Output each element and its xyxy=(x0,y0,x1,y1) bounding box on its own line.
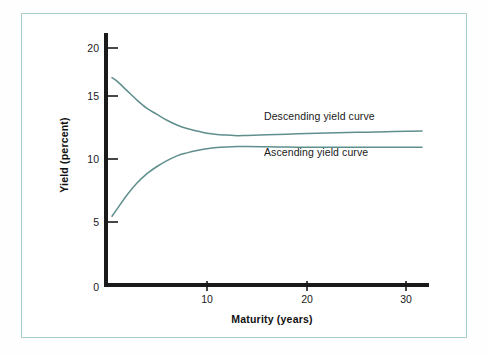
y-tick-label-0: 0 xyxy=(93,281,99,293)
chart-figure: 20 15 10 5 0 10 20 30 Maturity (years) Y… xyxy=(0,0,488,354)
x-tick-label-20: 20 xyxy=(301,293,313,305)
y-tick-label-15: 15 xyxy=(87,90,99,102)
yield-curve-plot: 20 15 10 5 0 10 20 30 Maturity (years) Y… xyxy=(0,0,488,354)
descending-yield-curve xyxy=(112,78,422,136)
y-axis-title: Yield (percent) xyxy=(58,117,70,193)
y-tick-label-20: 20 xyxy=(87,42,99,54)
descending-curve-label: Descending yield curve xyxy=(264,110,375,122)
y-tick-label-5: 5 xyxy=(93,216,99,228)
y-tick-label-10: 10 xyxy=(87,153,99,165)
ascending-curve-label: Ascending yield curve xyxy=(264,146,368,158)
x-axis-title: Maturity (years) xyxy=(231,313,312,325)
x-tick-label-10: 10 xyxy=(201,293,213,305)
x-tick-label-30: 30 xyxy=(400,293,412,305)
